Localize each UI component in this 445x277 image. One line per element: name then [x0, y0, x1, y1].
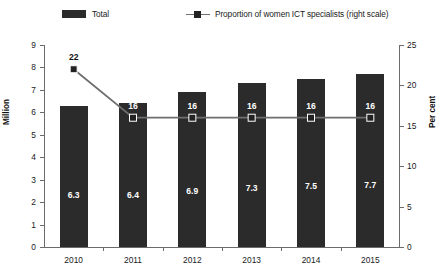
y-axis-right-tick-label: 5 — [407, 203, 433, 211]
y-axis-left-tick-label: 7 — [10, 86, 36, 94]
y-axis-right-tick — [400, 207, 404, 208]
y-axis-left-tick — [40, 247, 44, 248]
line-value-label: 16 — [239, 101, 265, 111]
line-value-label: 16 — [120, 101, 146, 111]
line-marker — [248, 114, 255, 121]
line-marker — [189, 114, 196, 121]
x-axis-tick-label: 2011 — [113, 255, 153, 265]
legend-item-label: Proportion of women ICT specialists (rig… — [215, 9, 388, 19]
bar-swatch-icon — [62, 10, 86, 18]
line-marker — [367, 114, 374, 121]
x-axis-tick — [341, 247, 342, 251]
x-axis-tick-label: 2010 — [54, 255, 94, 265]
y-axis-left-tick-label: 6 — [10, 108, 36, 116]
legend-item-total: Total — [62, 7, 109, 21]
y-axis-right-tick-label: 15 — [407, 122, 433, 130]
line-value-label: 16 — [179, 101, 205, 111]
x-axis-tick — [163, 247, 164, 251]
x-axis-tick-label: 2014 — [291, 255, 331, 265]
y-axis-left-tick-label: 4 — [10, 153, 36, 161]
chart-legend: Total Proportion of women ICT specialist… — [0, 6, 445, 26]
y-axis-right-tick — [400, 45, 404, 46]
x-axis-tick — [103, 247, 104, 251]
line-value-label: 16 — [298, 101, 324, 111]
y-axis-left-tick-label: 3 — [10, 176, 36, 184]
y-axis-right-tick — [400, 126, 404, 127]
y-axis-left-tick-label: 8 — [10, 63, 36, 71]
line-marker — [308, 114, 315, 121]
line-marker — [130, 114, 137, 121]
y-axis-left-tick-label: 0 — [10, 243, 36, 251]
chart-plot-area: 0123456789 0510152025 201020112012201320… — [44, 45, 400, 247]
line-value-label: 16 — [357, 101, 383, 111]
x-axis-tick-label: 2013 — [232, 255, 272, 265]
y-axis-right-tick-label: 10 — [407, 162, 433, 170]
x-axis-tick — [222, 247, 223, 251]
line-square-marker-icon — [186, 10, 210, 19]
y-axis-right-tick — [400, 247, 404, 248]
y-axis-right-tick — [400, 166, 404, 167]
x-axis-tick — [281, 247, 282, 251]
y-axis-right-tick-label: 25 — [407, 41, 433, 49]
y-axis-right-tick-label: 20 — [407, 81, 433, 89]
y-axis-left-tick-label: 5 — [10, 131, 36, 139]
y-axis-right-tick-label: 0 — [407, 243, 433, 251]
line-marker — [70, 66, 77, 73]
legend-item-proportion: Proportion of women ICT specialists (rig… — [186, 7, 388, 21]
x-axis-tick-label: 2012 — [172, 255, 212, 265]
x-axis-tick-label: 2015 — [350, 255, 390, 265]
y-axis-left-tick-label: 1 — [10, 221, 36, 229]
y-axis-right-tick — [400, 85, 404, 86]
legend-item-label: Total — [92, 9, 109, 19]
y-axis-left-tick-label: 9 — [10, 41, 36, 49]
line-series-proportion — [44, 45, 400, 247]
line-value-label: 22 — [61, 52, 87, 62]
y-axis-left-tick-label: 2 — [10, 198, 36, 206]
